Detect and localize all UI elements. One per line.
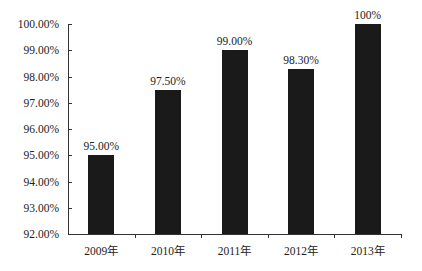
bar-2013年 bbox=[355, 24, 381, 234]
y-tick-label: 92.00% bbox=[24, 228, 59, 240]
x-tick-label: 2011年 bbox=[205, 242, 265, 258]
x-tick-mark bbox=[201, 234, 202, 238]
bar-value-label: 95.00% bbox=[71, 140, 131, 152]
y-tick-label: 98.00% bbox=[24, 71, 59, 83]
x-axis bbox=[68, 234, 401, 235]
x-tick-label: 2013年 bbox=[338, 242, 398, 258]
bar-value-label: 100% bbox=[338, 9, 398, 21]
y-axis bbox=[68, 24, 69, 234]
x-tick-mark bbox=[268, 234, 269, 238]
x-tick-label: 2009年 bbox=[71, 242, 131, 258]
y-tick-label: 93.00% bbox=[24, 202, 59, 214]
y-tick-label: 94.00% bbox=[24, 176, 59, 188]
y-tick-label: 99.00% bbox=[24, 44, 59, 56]
x-tick-mark bbox=[135, 234, 136, 238]
bar-2011年 bbox=[222, 50, 248, 234]
bar-value-label: 97.50% bbox=[138, 75, 198, 87]
bar-chart: 92.00%93.00%94.00%95.00%96.00%97.00%98.0… bbox=[0, 0, 422, 271]
x-tick-label: 2010年 bbox=[138, 242, 198, 258]
bar-2012年 bbox=[288, 69, 314, 234]
x-tick-mark bbox=[401, 234, 402, 238]
x-tick-label: 2012年 bbox=[271, 242, 331, 258]
y-tick-label: 100.00% bbox=[18, 18, 59, 30]
bar-value-label: 99.00% bbox=[205, 35, 265, 47]
bar-2010年 bbox=[155, 90, 181, 234]
y-tick-label: 96.00% bbox=[24, 123, 59, 135]
bar-2009年 bbox=[88, 155, 114, 234]
bar-value-label: 98.30% bbox=[271, 54, 331, 66]
y-tick-label: 97.00% bbox=[24, 97, 59, 109]
y-tick-label: 95.00% bbox=[24, 149, 59, 161]
x-tick-mark bbox=[334, 234, 335, 238]
